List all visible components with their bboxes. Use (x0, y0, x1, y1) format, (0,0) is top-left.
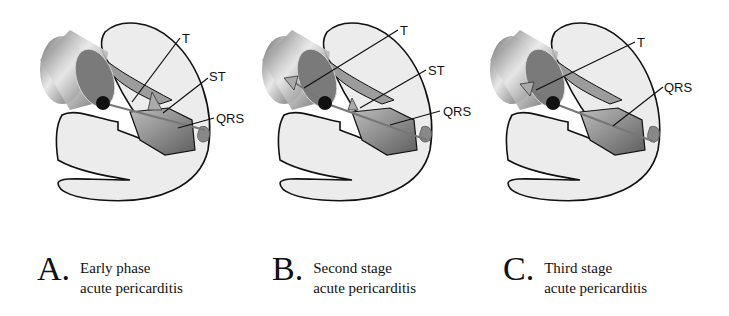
label-qrs: QRS (216, 111, 245, 126)
caption-b: B. Second stage acute pericarditis (272, 252, 416, 298)
panel-a-heart: T ST QRS (40, 23, 245, 201)
label-qrs: QRS (443, 104, 472, 119)
label-t: T (400, 23, 408, 38)
electrode-dot (96, 96, 110, 110)
caption-letter: B. (272, 252, 303, 286)
caption-line2: acute pericarditis (313, 278, 416, 298)
panel-c-heart: T QRS (490, 23, 693, 201)
label-t: T (182, 31, 190, 46)
panel-b-heart: T ST QRS (262, 23, 472, 201)
label-t: T (637, 35, 645, 50)
caption-line1: Third stage (544, 258, 647, 278)
label-st: ST (209, 69, 226, 84)
label-qrs: QRS (664, 80, 693, 95)
caption-line2: acute pericarditis (544, 278, 647, 298)
caption-c: C. Third stage acute pericarditis (503, 252, 647, 298)
caption-line2: acute pericarditis (80, 278, 183, 298)
pericarditis-diagram: T ST QRS T ST QRS T QRS (0, 0, 729, 240)
caption-a: A. Early phase acute pericarditis (37, 252, 183, 298)
label-st: ST (428, 63, 445, 78)
electrode-dot (546, 96, 560, 110)
electrode-dot (318, 96, 332, 110)
caption-letter: A. (37, 252, 70, 286)
caption-line1: Second stage (313, 258, 416, 278)
caption-line1: Early phase (80, 258, 183, 278)
caption-letter: C. (503, 252, 534, 286)
